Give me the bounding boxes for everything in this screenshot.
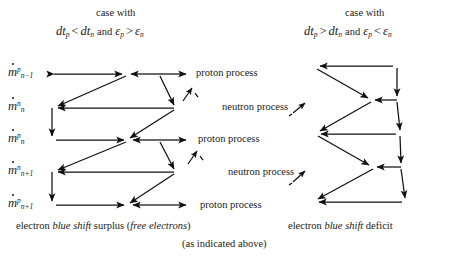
caption-right-pre: electron — [288, 220, 324, 231]
process-label-4: neutron process — [228, 167, 294, 178]
left-diagonal-r3-to-r4 — [58, 142, 126, 170]
right-condition: dtp>dtnandεp<εn — [304, 25, 392, 39]
row-label-4: mnn+1 — [8, 164, 33, 178]
caption-left: electron blue shift surplus (free electr… — [16, 221, 191, 232]
left-diagonal-r4-to-r5 — [130, 174, 174, 203]
caption-right-post: deficit — [363, 220, 392, 231]
caption-left-post: surplus ( — [91, 220, 130, 231]
process-label-1: proton process — [196, 68, 258, 79]
left-cond-conj: and — [94, 26, 115, 37]
caption-bottom: (as indicated above) — [182, 239, 267, 250]
caption-left-end: ) — [187, 220, 191, 231]
left-cond-a: dt — [56, 24, 66, 38]
right-vertical-r2-r3 — [397, 102, 400, 130]
row-label-3-sub: n — [21, 137, 25, 146]
right-cond-b: dt — [329, 24, 339, 38]
left-case-title: case with — [96, 8, 135, 19]
right-cond-rel2: < — [372, 24, 383, 38]
left-diagonal-r1-to-r2 — [58, 76, 126, 106]
right-cond-a: dt — [304, 24, 314, 38]
right-diagonal-r3-to-r4 — [318, 136, 369, 165]
right-diagonal-r2-to-r3 — [320, 102, 371, 131]
left-cond-d-sub: n — [140, 30, 144, 39]
left-condition: dtp<dtnandεp>εn — [56, 25, 144, 39]
right-vertical-r3-r4 — [400, 136, 401, 163]
diagram-canvas: case with dtp<dtnandεp>εn case with dtp>… — [0, 0, 461, 260]
right-diagonal-r1-to-r2 — [317, 69, 368, 98]
row-label-2-sub: n — [21, 105, 25, 114]
row-label-3: mpn — [8, 132, 25, 146]
process-label-5: proton process — [200, 200, 262, 211]
row-label-1: mpn−1 — [8, 66, 33, 80]
left-pointer-mark-1 — [183, 88, 198, 101]
left-cond-rel1: < — [69, 24, 80, 38]
row-label-3-base: m — [8, 132, 17, 145]
right-case-title: case with — [345, 8, 384, 19]
row-label-2-base: m — [8, 100, 17, 113]
right-cond-conj: and — [342, 26, 363, 37]
caption-left-em: blue shift — [52, 220, 91, 231]
right-pointer-mark-1 — [289, 103, 305, 116]
left-pointer-mark-2 — [188, 151, 203, 164]
right-cond-d-sub: n — [388, 30, 392, 39]
left-cond-b: dt — [81, 24, 91, 38]
left-diagonal-r2-to-r3 — [130, 110, 174, 138]
row-label-1-sub: n−1 — [21, 71, 34, 80]
left-diagonal-r1-to-r2-right — [160, 76, 174, 105]
process-label-3: proton process — [198, 134, 260, 145]
row-label-4-base: m — [8, 164, 17, 177]
right-diagonal-r4-to-r5 — [318, 169, 373, 199]
row-label-5-sub: n+1 — [21, 202, 34, 211]
row-label-5-base: m — [8, 197, 17, 210]
row-label-2: mnn — [8, 100, 25, 114]
caption-left-em2: free electrons — [130, 220, 187, 231]
row-label-1-base: m — [8, 66, 17, 79]
caption-right-em: blue shift — [324, 220, 363, 231]
right-cond-rel1: > — [317, 24, 328, 38]
row-label-5: mpn+1 — [8, 197, 33, 211]
caption-left-pre: electron — [16, 220, 52, 231]
row-label-4-sub: n+1 — [21, 169, 34, 178]
right-vertical-r4-r5 — [401, 169, 405, 198]
caption-right: electron blue shift deficit — [288, 221, 393, 232]
left-cond-rel2: > — [124, 24, 135, 38]
process-label-2: neutron process — [222, 102, 288, 113]
left-diagonal-r3-to-r4-right — [160, 142, 174, 169]
